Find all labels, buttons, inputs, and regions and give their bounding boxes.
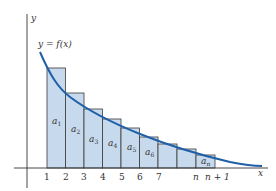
tick-3: 3 (81, 172, 87, 182)
tick-n-plus-1: n + 1 (205, 172, 230, 182)
curve-label: y = f(x) (37, 39, 72, 49)
rectangles (47, 68, 215, 168)
tick-4: 4 (100, 172, 106, 182)
tick-labels: 1 2 3 4 5 6 7 n n + 1 (44, 172, 230, 182)
tick-1: 1 (44, 172, 50, 182)
tick-5: 5 (119, 172, 125, 182)
tick-2: 2 (63, 172, 69, 182)
tick-7: 7 (156, 172, 162, 182)
y-axis-label: y (30, 13, 37, 23)
tick-6: 6 (137, 172, 143, 182)
tick-n: n (193, 172, 199, 182)
x-axis-label: x (258, 168, 263, 178)
series-diagram: y x y = f(x) 1 2 3 4 5 6 7 n n + 1 a1 a2… (0, 0, 276, 191)
rect-a7 (158, 144, 177, 168)
